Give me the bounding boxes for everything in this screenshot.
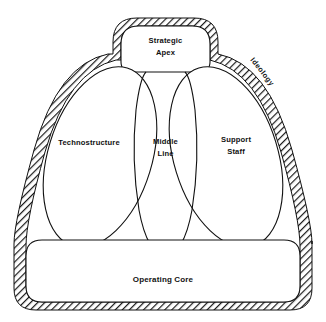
strategic-apex-label-line2: Apex [156,48,176,57]
technostructure-label: Technostructure [58,138,120,147]
strategic-apex-label-line1: Strategic [149,36,183,45]
middle-line-label-line2: Line [157,149,173,158]
support-staff-label-line1: Support [221,135,251,144]
operating-core-shape [26,240,300,302]
diagram-canvas: Strategic Apex Technostructure Middle Li… [0,0,326,322]
operating-core-label: Operating Core [133,275,194,284]
support-staff-label-line2: Staff [227,147,245,156]
middle-line-label-line1: Middle [153,137,178,146]
organization-diagram: Strategic Apex Technostructure Middle Li… [0,0,326,322]
